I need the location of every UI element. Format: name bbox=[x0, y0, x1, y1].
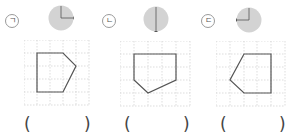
answer-blank-2[interactable] bbox=[134, 116, 182, 134]
answer-open-3: ( bbox=[220, 114, 227, 134]
answer-open-2: ( bbox=[124, 114, 131, 134]
pentagon-shape-3 bbox=[230, 54, 271, 93]
rotation-dial-icon-3 bbox=[236, 7, 262, 33]
pentagon-shape-1 bbox=[37, 53, 76, 92]
problem-label-1: ㄱ bbox=[5, 14, 19, 28]
answer-open-1: ( bbox=[24, 114, 31, 134]
answer-blank-1[interactable] bbox=[34, 116, 82, 134]
answer-blank-3[interactable] bbox=[230, 116, 278, 134]
answer-close-2: ) bbox=[183, 114, 190, 134]
rotation-dial-icon-2 bbox=[143, 6, 169, 32]
pentagon-shape-2 bbox=[134, 54, 176, 93]
answer-close-1: ) bbox=[84, 114, 91, 134]
problem-label-2: ㄴ bbox=[102, 14, 116, 28]
shape-grid-3 bbox=[216, 41, 286, 107]
shape-grid-1 bbox=[24, 40, 90, 106]
problem-label-3: ㄷ bbox=[201, 14, 215, 28]
shape-grid-2 bbox=[120, 41, 192, 107]
rotation-dial-icon-1 bbox=[48, 5, 74, 31]
answer-close-3: ) bbox=[279, 114, 286, 134]
